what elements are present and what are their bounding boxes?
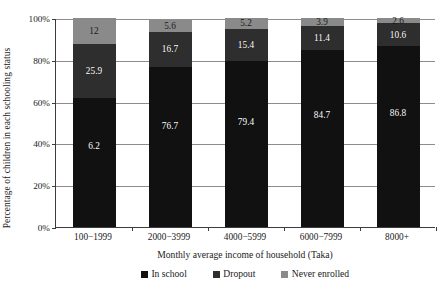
bar-value-label: 12: [73, 26, 116, 36]
bar-stack[interactable]: 86.810.62.6: [377, 19, 420, 227]
legend-swatch-icon: [281, 271, 288, 278]
bar-value-label: 86.8: [377, 108, 420, 118]
chart-figure: Percentage of children in each schooling…: [0, 0, 444, 294]
bar-value-label: 16.7: [149, 44, 192, 54]
bar-value-label: 5.6: [149, 21, 192, 31]
bar-value-label: 15.4: [225, 40, 268, 50]
y-axis-tick: [52, 61, 56, 62]
legend-swatch-icon: [213, 271, 220, 278]
bar-segment[interactable]: 79.4: [225, 61, 268, 227]
y-axis-tick-labels: 0%20%40%60%80%100%: [8, 0, 50, 294]
bar-segment[interactable]: 12: [73, 18, 116, 43]
bar-segment[interactable]: 16.7: [149, 32, 192, 67]
legend-swatch-icon: [141, 271, 148, 278]
y-axis-tick-label: 40%: [18, 139, 50, 149]
bar-value-label: 5.2: [225, 18, 268, 28]
bar-value-label: 25.9: [73, 66, 116, 76]
bar-segment[interactable]: 6.2: [73, 98, 116, 227]
y-axis-tick-label: 60%: [18, 98, 50, 108]
x-axis-tick-label: 6000−7999: [283, 231, 359, 243]
y-axis-tick-label: 0%: [18, 223, 50, 233]
bar-segment[interactable]: 5.2: [225, 18, 268, 29]
x-axis-tick-label: 2000−3999: [131, 231, 207, 243]
x-axis-tick-label: 4000−5999: [207, 231, 283, 243]
plot-area: 6.225.91276.716.75.679.415.45.284.711.43…: [55, 19, 435, 228]
bar-value-label: 2.6: [377, 16, 420, 26]
bar-segment[interactable]: 76.7: [149, 67, 192, 227]
bar-stack[interactable]: 6.225.912: [73, 19, 116, 227]
y-axis-tick-label: 80%: [18, 56, 50, 66]
x-axis-tick: [436, 227, 437, 231]
bar-segment[interactable]: 84.7: [301, 50, 344, 227]
bar-segment[interactable]: 5.6: [149, 20, 192, 32]
bar-segment[interactable]: 86.8: [377, 46, 420, 227]
bar-segment[interactable]: 11.4: [301, 26, 344, 50]
chart-legend: In schoolDropoutNever enrolled: [55, 266, 435, 282]
legend-item[interactable]: Dropout: [213, 268, 255, 280]
bar-value-label: 6.2: [73, 141, 116, 151]
bar-stack[interactable]: 79.415.45.2: [225, 19, 268, 227]
bar-segment[interactable]: 10.6: [377, 23, 420, 45]
bar-segment[interactable]: 2.6: [377, 18, 420, 23]
bar-value-label: 10.6: [377, 30, 420, 40]
bar-segment[interactable]: 3.9: [301, 18, 344, 26]
legend-label: In school: [151, 268, 186, 280]
bar-value-label: 76.7: [149, 121, 192, 131]
x-axis-tick-label: 100−1999: [55, 231, 131, 243]
bar-segment[interactable]: 15.4: [225, 29, 268, 61]
y-axis-tick: [52, 103, 56, 104]
bar-value-label: 11.4: [301, 33, 344, 43]
legend-item[interactable]: Never enrolled: [281, 268, 349, 280]
x-axis-tick-label: 8000+: [359, 231, 435, 243]
y-axis-tick: [52, 228, 56, 229]
x-axis-tick-labels: 100−19992000−39994000−59996000−79998000+: [55, 231, 435, 245]
y-axis-tick: [52, 144, 56, 145]
y-axis-tick: [52, 186, 56, 187]
legend-label: Never enrolled: [292, 268, 349, 280]
bar-value-label: 79.4: [225, 117, 268, 127]
bar-stack[interactable]: 84.711.43.9: [301, 19, 344, 227]
legend-item[interactable]: In school: [141, 268, 187, 280]
bar-value-label: 84.7: [301, 110, 344, 120]
legend-label: Dropout: [223, 268, 255, 280]
bar-value-label: 3.9: [301, 17, 344, 27]
bar-segment[interactable]: 25.9: [73, 44, 116, 98]
y-axis-tick-label: 100%: [18, 14, 50, 24]
y-axis-tick: [52, 19, 56, 20]
y-axis-tick-label: 20%: [18, 181, 50, 191]
bar-stack[interactable]: 76.716.75.6: [149, 19, 192, 227]
x-axis-title: Monthly average income of household (Tak…: [55, 248, 435, 261]
